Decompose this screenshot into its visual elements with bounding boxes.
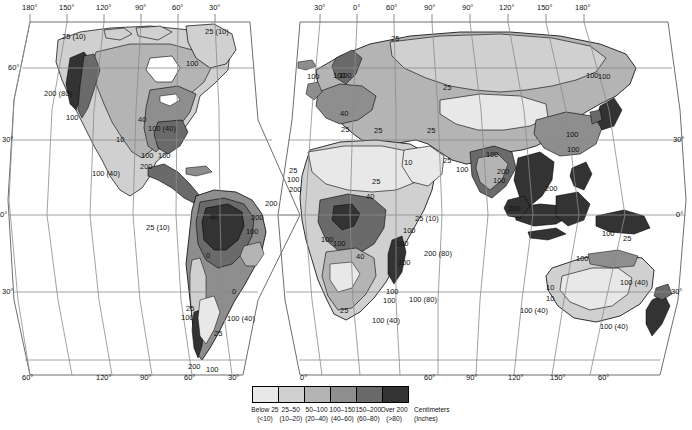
lon-label-top-2: 120° bbox=[96, 4, 112, 12]
legend-swatch bbox=[383, 387, 408, 402]
contour-label: 25 bbox=[214, 330, 222, 338]
contour-label: 100 bbox=[307, 73, 320, 81]
lon-label-bot-3: 60° bbox=[184, 374, 195, 382]
contour-label: 25 (10) bbox=[205, 28, 229, 36]
lon-label-bot-2: 90° bbox=[140, 374, 151, 382]
contour-label: 10 bbox=[404, 159, 412, 167]
contour-label: 200 bbox=[140, 163, 153, 171]
map-graphic bbox=[0, 0, 692, 385]
contour-label: 100 bbox=[246, 228, 259, 236]
contour-label: 200 (80) bbox=[44, 90, 72, 98]
contour-label: 100 bbox=[287, 176, 300, 184]
contour-label: 25 bbox=[372, 178, 380, 186]
contour-label: 100 bbox=[333, 240, 346, 248]
lon-label-top-7: 0° bbox=[353, 4, 360, 12]
lon-label-top-1: 150° bbox=[59, 4, 75, 12]
lon-label-bot-7: 90° bbox=[466, 374, 477, 382]
contour-label: 25 bbox=[443, 84, 451, 92]
contour-label: 100 bbox=[339, 72, 352, 80]
lon-label-top-10: 90° bbox=[462, 4, 473, 12]
contour-label: 200 bbox=[251, 214, 264, 222]
legend-class-label: Over 200(>80) bbox=[375, 405, 413, 423]
lon-label-top-3: 90° bbox=[135, 4, 146, 12]
lon-label-top-13: 180° bbox=[575, 4, 591, 12]
contour-label: 10 bbox=[116, 136, 124, 144]
lat-label-left-eq: 0° bbox=[0, 211, 7, 219]
lon-label-bot-4: 30° bbox=[228, 374, 239, 382]
legend-swatches bbox=[252, 386, 409, 403]
contour-label: 100 bbox=[383, 297, 396, 305]
lon-label-top-12: 150° bbox=[537, 4, 553, 12]
contour-label: 25 (10) bbox=[415, 215, 439, 223]
legend-labels: Centimeters (Inches) Below 25(<10)25–50(… bbox=[252, 405, 552, 429]
lon-label-bot-8: 120° bbox=[508, 374, 524, 382]
lon-label-top-9: 90° bbox=[424, 4, 435, 12]
western-hemisphere-lobe bbox=[0, 0, 310, 385]
precipitation-map-page: 180° 150° 120° 90° 60° 30° 30° 0° 60° 90… bbox=[0, 0, 692, 430]
contour-label: 100 (40) bbox=[92, 170, 120, 178]
contour-label: 200 (80) bbox=[424, 250, 452, 258]
lat-label-left-30n: 30° bbox=[2, 136, 13, 144]
contour-label: 100 bbox=[181, 314, 194, 322]
contour-label: 40 bbox=[138, 116, 146, 124]
lat-label-right-eq: 0° bbox=[676, 211, 683, 219]
legend-unit-secondary: (Inches) bbox=[414, 414, 450, 423]
legend-swatch bbox=[331, 387, 357, 402]
contour-label: 100 bbox=[398, 259, 411, 267]
contour-label: 25 bbox=[623, 235, 631, 243]
contour-label: 100 bbox=[586, 72, 599, 80]
contour-label: 200 bbox=[289, 186, 302, 194]
contour-label: 100 bbox=[206, 366, 219, 374]
contour-label: 100 bbox=[158, 152, 171, 160]
world-map: 180° 150° 120° 90° 60° 30° 30° 0° 60° 90… bbox=[0, 0, 692, 385]
contour-label: 100 (40) bbox=[520, 307, 548, 315]
contour-label: 100 bbox=[321, 236, 334, 244]
lat-label-left-30s: 30° bbox=[2, 288, 13, 296]
lon-label-bot-0: 60° bbox=[22, 374, 33, 382]
legend: Centimeters (Inches) Below 25(<10)25–50(… bbox=[252, 386, 552, 429]
contour-label: 10 bbox=[546, 295, 554, 303]
lon-label-bot-9: 150° bbox=[550, 374, 566, 382]
contour-label: 200 bbox=[265, 200, 278, 208]
legend-unit-primary: Centimeters bbox=[414, 406, 450, 413]
contour-label: 100 (40) bbox=[372, 317, 400, 325]
contour-label: 200 bbox=[508, 205, 521, 213]
contour-label: 25 bbox=[289, 167, 297, 175]
legend-swatch bbox=[357, 387, 383, 402]
contour-label: 100 bbox=[403, 227, 416, 235]
contour-label: 25 bbox=[186, 305, 194, 313]
contour-label: 0 bbox=[232, 288, 236, 296]
contour-label: 100 bbox=[456, 166, 469, 174]
lon-label-top-4: 60° bbox=[172, 4, 183, 12]
contour-label: 100 bbox=[396, 240, 409, 248]
lon-label-bot-6: 60° bbox=[424, 374, 435, 382]
contour-label: 25 (10) bbox=[62, 33, 86, 41]
contour-label: 40 bbox=[340, 110, 348, 118]
contour-label: 100 bbox=[186, 60, 199, 68]
legend-range-in: (>80) bbox=[375, 414, 413, 423]
contour-label: 200 bbox=[545, 185, 558, 193]
contour-label: 100 (40) bbox=[600, 323, 628, 331]
contour-label: 100 bbox=[141, 152, 154, 160]
contour-label: 100 (80) bbox=[409, 296, 437, 304]
contour-label: 200 bbox=[497, 168, 510, 176]
contour-label: 40 bbox=[356, 253, 364, 261]
contour-label: 100 bbox=[493, 177, 506, 185]
legend-swatch bbox=[279, 387, 305, 402]
contour-label: 100 bbox=[567, 146, 580, 154]
lon-label-top-8: 60° bbox=[386, 4, 397, 12]
contour-label: 25 bbox=[374, 127, 382, 135]
contour-label: 25 (10) bbox=[146, 224, 170, 232]
contour-label: 200 bbox=[188, 363, 201, 371]
lat-label-right-30n: 30° bbox=[673, 136, 684, 144]
lon-label-top-6: 30° bbox=[314, 4, 325, 12]
legend-units: Centimeters (Inches) bbox=[414, 405, 450, 423]
contour-label: 100 (40) bbox=[148, 125, 176, 133]
contour-label: 0 bbox=[206, 252, 210, 260]
legend-swatch bbox=[253, 387, 279, 402]
lon-label-bot-1: 120° bbox=[96, 374, 112, 382]
legend-swatch bbox=[305, 387, 331, 402]
contour-label: 80 bbox=[210, 213, 218, 221]
contour-label: 100 bbox=[566, 131, 579, 139]
lon-label-top-5: 30° bbox=[209, 4, 220, 12]
